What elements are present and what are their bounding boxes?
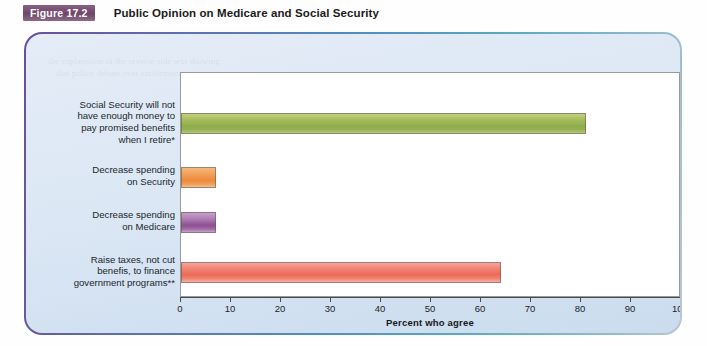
x-axis-tick-label: 60	[475, 303, 486, 314]
category-label: Decrease spendingon Security	[30, 164, 180, 187]
category-label-list: Social Security will nothave enough mone…	[26, 72, 180, 297]
category-label-line: when I retire*	[30, 134, 175, 146]
ghost-text-line: the explanation of the reverse side text…	[48, 56, 220, 66]
bar	[181, 262, 501, 283]
category-label-line: benefis, to finance	[30, 265, 175, 277]
x-axis-tick-label: 100	[672, 303, 680, 314]
x-axis-tick	[430, 297, 431, 302]
category-label-line: government programs**	[30, 277, 175, 289]
x-axis-tick-label: 20	[275, 303, 286, 314]
bar	[181, 167, 216, 188]
x-axis-title: Percent who agree	[180, 317, 680, 328]
category-label: Raise taxes, not cutbenefis, to financeg…	[30, 254, 180, 289]
x-axis-tick-label: 90	[625, 303, 636, 314]
x-axis-tick	[530, 297, 531, 302]
page-title: Public Opinion on Medicare and Social Se…	[114, 7, 379, 19]
x-axis-tick	[180, 297, 181, 302]
category-label-line: Social Security will not	[30, 99, 175, 111]
figure-number-badge: Figure 17.2	[23, 5, 95, 22]
plot-area	[180, 72, 680, 297]
chart-panel: the explanation of the reverse side text…	[24, 32, 682, 335]
x-axis-tick	[580, 297, 581, 302]
category-label-line: Decrease spending	[30, 209, 175, 221]
x-axis: 0102030405060708090100	[180, 297, 680, 298]
bar	[181, 212, 216, 233]
category-label-line: have enough money to	[30, 110, 175, 122]
x-axis-tick-label: 0	[177, 303, 182, 314]
chart-panel-inner: the explanation of the reverse side text…	[26, 34, 680, 333]
x-axis-tick	[280, 297, 281, 302]
category-label-line: pay promised benefits	[30, 122, 175, 134]
x-axis-tick	[230, 297, 231, 302]
x-axis-tick-label: 50	[425, 303, 436, 314]
x-axis-tick-label: 40	[375, 303, 386, 314]
category-label-line: on Security	[30, 176, 175, 188]
category-label-line: on Medicare	[30, 221, 175, 233]
x-axis-tick-label: 30	[325, 303, 336, 314]
category-label: Social Security will nothave enough mone…	[30, 99, 180, 145]
x-axis-tick	[480, 297, 481, 302]
category-label: Decrease spendingon Medicare	[30, 209, 180, 232]
figure-header: Figure 17.2 Public Opinion on Medicare a…	[0, 0, 707, 26]
x-axis-tick	[630, 297, 631, 302]
category-label-line: Decrease spending	[30, 164, 175, 176]
x-axis-tick	[380, 297, 381, 302]
x-axis-tick-label: 10	[225, 303, 236, 314]
x-axis-tick	[330, 297, 331, 302]
x-axis-tick-label: 70	[525, 303, 536, 314]
bar	[181, 113, 586, 134]
category-label-line: Raise taxes, not cut	[30, 254, 175, 266]
x-axis-tick-label: 80	[575, 303, 586, 314]
